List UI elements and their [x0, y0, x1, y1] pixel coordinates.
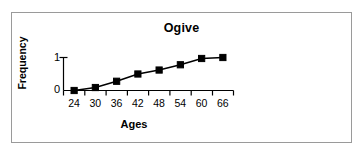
data-point-marker [92, 84, 98, 90]
data-point-marker [135, 71, 141, 77]
data-point-marker [199, 55, 205, 61]
x-axis-ticks [64, 91, 234, 96]
data-point-marker [220, 54, 226, 60]
data-point-marker [156, 67, 162, 73]
axes [60, 58, 234, 96]
data-point-marker [71, 87, 77, 93]
chart-frame: Ogive Frequency 1 0 [11, 12, 352, 143]
x-axis-tick-label: 66 [210, 98, 236, 109]
data-point-marker [114, 78, 120, 84]
data-point-marker [177, 62, 183, 68]
x-axis-title: Ages [40, 118, 228, 130]
data-series-markers [71, 54, 226, 93]
plot-area: Frequency 1 0 [12, 13, 353, 144]
